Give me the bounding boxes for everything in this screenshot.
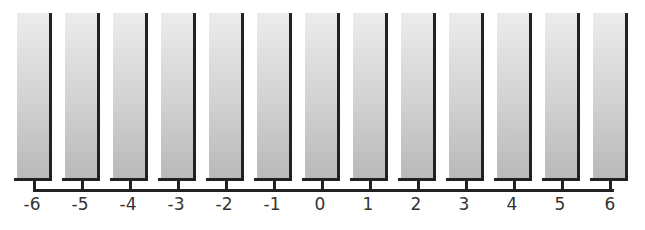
tick-label: 0 [300,194,340,214]
tick-label: -1 [252,194,292,214]
bar [401,13,436,179]
tick-label: -6 [12,194,52,214]
bar [65,13,100,179]
tick-mark [561,180,564,191]
tick-mark [321,180,324,191]
tick-label: -3 [156,194,196,214]
tick-label: -5 [60,194,100,214]
tick-label: 2 [396,194,436,214]
tick-label: 1 [348,194,388,214]
bar [305,13,340,179]
tick-mark [417,180,420,191]
tick-mark [225,180,228,191]
bar [209,13,244,179]
bar [449,13,484,179]
tick-mark [177,180,180,191]
tick-label: -2 [204,194,244,214]
bar [353,13,388,179]
tick-label: 3 [444,194,484,214]
number-line-diagram: -6 -5 -4 -3 -2 -1 0 [0,0,645,230]
tick-mark [513,180,516,191]
bar [257,13,292,179]
bar [593,13,628,179]
tick-label: 4 [492,194,532,214]
tick-mark [609,180,612,191]
bar [113,13,148,179]
tick-mark [81,180,84,191]
bar [545,13,580,179]
tick-label: 5 [540,194,580,214]
bar [17,13,52,179]
tick-mark [33,180,36,191]
number-line-baseline [33,189,614,192]
bar [497,13,532,179]
tick-mark [369,180,372,191]
tick-label: -4 [108,194,148,214]
bar [161,13,196,179]
tick-mark [465,180,468,191]
tick-mark [129,180,132,191]
tick-label: 6 [590,194,630,214]
tick-mark [273,180,276,191]
